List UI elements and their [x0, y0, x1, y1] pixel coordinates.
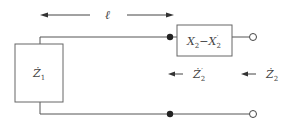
svg-text:Ż2: Ż2	[265, 67, 278, 83]
length-arrow-left	[40, 13, 90, 18]
circuit-diagram: ℓ Ż1 X2−X2′ Ż2′ Ż2	[0, 0, 286, 128]
svg-text:Ż2′: Ż2′	[192, 67, 205, 83]
series-reactance-label: X2−X2′	[186, 34, 221, 50]
impedance-z2-prime: Ż2′	[168, 67, 205, 83]
length-arrow-right	[127, 13, 174, 18]
top-wire	[40, 37, 177, 44]
terminal-top	[250, 34, 257, 41]
length-label: ℓ	[105, 8, 110, 22]
bottom-wire	[40, 102, 249, 114]
terminal-bottom	[250, 111, 257, 118]
junction-dot-top	[167, 34, 173, 40]
impedance-z2: Ż2	[241, 67, 278, 83]
junction-dot-bottom	[167, 111, 173, 117]
